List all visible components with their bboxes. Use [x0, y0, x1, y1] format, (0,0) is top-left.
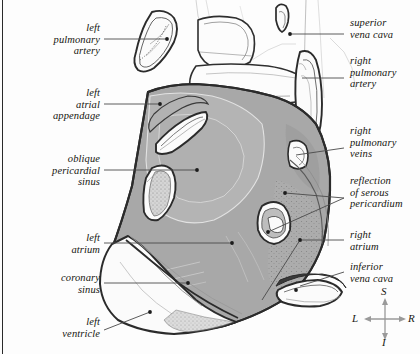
figure-page: left pulmonary artery left atrial append… [0, 0, 420, 354]
label-coronary-sinus: coronary sinus [6, 272, 100, 295]
left-pulmonary-artery-shape [134, 11, 177, 72]
compass-label-inferior: I [382, 336, 386, 348]
compass-label-left: L [352, 312, 358, 324]
dot-left-atrial-appendage [158, 102, 162, 106]
label-oblique-pericardial-sinus: oblique pericardial sinus [4, 153, 100, 188]
inferior-vena-cava-shape [276, 274, 346, 307]
label-right-pulmonary-artery: right pulmonary artery [350, 55, 420, 90]
dot-inferior-vena-cava [294, 288, 298, 292]
dot-superior-vena-cava [288, 32, 292, 36]
label-left-atrium: left atrium [6, 232, 100, 255]
label-right-atrium: right atrium [350, 229, 420, 252]
label-left-pulmonary-artery: left pulmonary artery [6, 22, 100, 57]
orientation-compass [364, 298, 406, 340]
dot-left-ventricle [148, 310, 152, 314]
superior-vena-cava-shape [276, 4, 289, 32]
label-right-pulmonary-veins: right pulmonary veins [350, 125, 420, 160]
label-inferior-vena-cava: inferior vena cava [350, 261, 420, 284]
dot-reflection-of-serous-pericardium [283, 191, 287, 195]
label-left-atrial-appendage: left atrial appendage [6, 87, 100, 122]
compass-label-right: R [408, 312, 415, 324]
dot-left-atrium [230, 241, 234, 245]
label-left-ventricle: left ventricle [6, 316, 100, 339]
dot-right-atrium [298, 238, 302, 242]
dot-oblique-pericardial-sinus [195, 168, 199, 172]
dot-left-pulmonary-artery [165, 37, 169, 41]
dot-right-pulmonary-veins [266, 230, 270, 234]
compass-label-superior: S [381, 285, 387, 297]
dot-coronary-sinus [186, 281, 190, 285]
label-reflection-of-serous-pericardium: reflection of serous pericardium [350, 175, 420, 210]
label-superior-vena-cava: superior vena cava [350, 17, 420, 40]
